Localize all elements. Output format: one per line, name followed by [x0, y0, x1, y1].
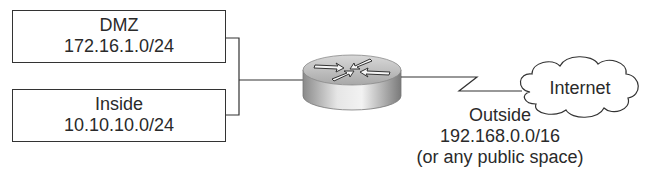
inside-subnet: 10.10.10.0/24: [13, 115, 225, 136]
dmz-network-box: DMZ 172.16.1.0/24: [12, 10, 226, 63]
dmz-subnet: 172.16.1.0/24: [13, 36, 225, 57]
outside-subnet: 192.168.0.0/16: [380, 126, 620, 147]
internet-label: Internet: [520, 78, 640, 99]
router-icon: [303, 55, 401, 110]
dmz-name: DMZ: [13, 15, 225, 36]
outside-name: Outside: [380, 105, 620, 126]
inside-network-box: Inside 10.10.10.0/24: [12, 89, 226, 142]
serial-link-outside: [401, 77, 522, 91]
outside-note: (or any public space): [380, 147, 620, 168]
lan-bracket-connector: [226, 38, 303, 115]
inside-name: Inside: [13, 94, 225, 115]
outside-link-label: Outside 192.168.0.0/16 (or any public sp…: [380, 105, 620, 168]
